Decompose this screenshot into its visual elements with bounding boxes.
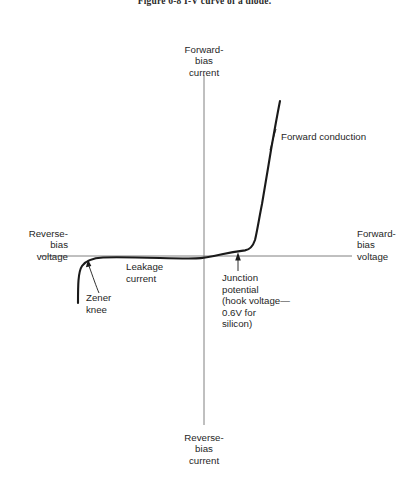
forward-conduction-leader-line <box>270 129 276 150</box>
axis-label-reverse-bias-voltage: Reverse- bias voltage <box>6 228 68 262</box>
annotation-zener-knee: Zener knee <box>86 292 146 315</box>
figure-root: Figure 6-8 I-V curve of a diode. Forward… <box>0 0 409 485</box>
axis-label-forward-bias-voltage: Forward- bias voltage <box>357 228 409 262</box>
axis-label-reverse-bias-current: Reverse- bias current <box>162 432 246 466</box>
annotation-junction-potential: Junction potential (hook voltage— 0.6V f… <box>222 272 334 330</box>
axis-label-forward-bias-current: Forward- bias current <box>162 44 246 78</box>
annotation-forward-conduction: Forward conduction <box>281 131 401 143</box>
zener-knee-pointer-arrow <box>89 266 99 293</box>
annotation-leakage-current: Leakage current <box>126 261 198 284</box>
